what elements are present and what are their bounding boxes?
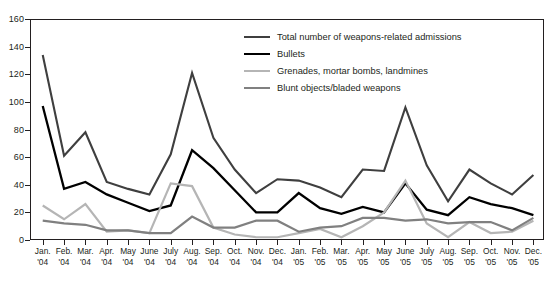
legend-swatch-icon	[244, 36, 270, 38]
series-line-2	[43, 181, 534, 238]
chart-legend: Total number of weapons-related admissio…	[244, 28, 462, 96]
legend-item-1: Bullets	[244, 45, 462, 62]
legend-label: Total number of weapons-related admissio…	[277, 32, 462, 42]
legend-swatch-icon	[244, 87, 270, 89]
weapons-admissions-line-chart: 020406080100120140160 Jan.'04Feb.'04Mar.…	[0, 0, 559, 283]
legend-swatch-icon	[244, 53, 270, 55]
legend-label: Blunt objects/bladed weapons	[277, 83, 401, 93]
legend-label: Bullets	[277, 49, 305, 59]
legend-item-3: Blunt objects/bladed weapons	[244, 79, 462, 96]
legend-item-2: Grenades, mortar bombs, landmines	[244, 62, 462, 79]
legend-item-0: Total number of weapons-related admissio…	[244, 28, 462, 45]
series-line-1	[43, 106, 534, 215]
legend-label: Grenades, mortar bombs, landmines	[277, 66, 428, 76]
legend-swatch-icon	[244, 70, 270, 72]
series-line-3	[43, 217, 534, 234]
